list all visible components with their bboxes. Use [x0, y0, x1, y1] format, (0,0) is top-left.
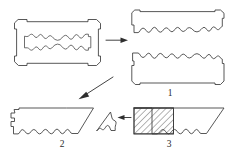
blade-piece-two-contour — [11, 108, 94, 134]
figure-label-3: 3 — [167, 139, 172, 149]
figure-label-2: 2 — [60, 139, 65, 149]
figure-label-1: 1 — [168, 88, 173, 98]
blade-chip-fragment — [97, 112, 116, 131]
arrow-diagonal-shaft — [84, 77, 114, 96]
cross-section-hatching — [134, 108, 174, 134]
blade-half-upper-contour — [132, 10, 224, 33]
blade-piece-three — [134, 108, 224, 134]
blade-half-lower-contour — [132, 53, 224, 85]
blade-piece-two — [11, 108, 94, 134]
arrow-chip-detach — [118, 115, 132, 120]
blade-half-lower — [132, 53, 224, 85]
blade-half-upper — [132, 10, 224, 33]
blade-chip-contour — [97, 112, 116, 131]
whole-razor-blade — [15, 20, 101, 66]
razor-blade-sectioning-figure: 1 2 3 — [0, 0, 232, 159]
arrow-horizontal — [106, 38, 128, 43]
arrow-horizontal-head — [121, 38, 129, 43]
blade-outer-contour — [15, 20, 101, 66]
arrow-diagonal — [79, 77, 114, 99]
figure-canvas: 1 2 3 — [0, 0, 232, 159]
arrow-chip-head — [118, 115, 125, 120]
